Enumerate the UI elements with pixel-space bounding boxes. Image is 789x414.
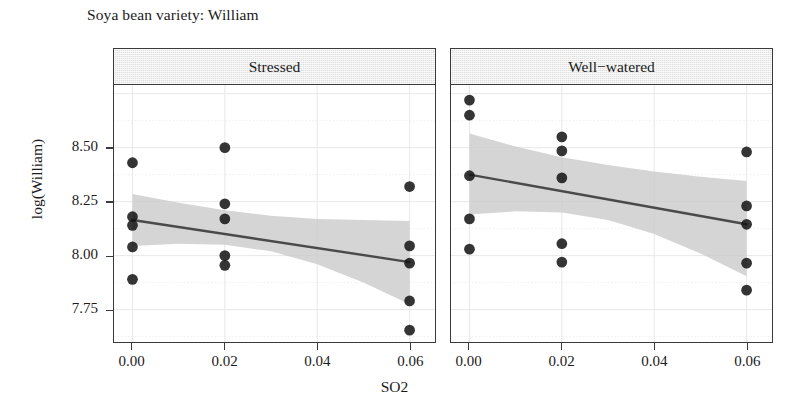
data-point xyxy=(464,95,475,106)
data-point xyxy=(219,214,230,225)
y-tick-mark xyxy=(106,310,113,311)
x-tick-mark xyxy=(747,343,748,350)
data-point xyxy=(404,258,415,269)
data-point xyxy=(127,242,138,253)
x-tick-label: 0.04 xyxy=(277,353,357,370)
panel-strip-wellwatered: Well−watered xyxy=(450,48,773,85)
data-point xyxy=(404,241,415,252)
y-tick-label: 8.00 xyxy=(30,246,98,263)
x-tick-label: 0.02 xyxy=(185,353,265,370)
x-tick-label: 0.04 xyxy=(614,353,694,370)
data-point xyxy=(404,325,415,336)
data-point xyxy=(404,296,415,307)
data-point xyxy=(741,258,752,269)
y-tick-label: 8.25 xyxy=(30,192,98,209)
y-tick-label: 8.50 xyxy=(30,138,98,155)
panel-strip-stressed: Stressed xyxy=(113,48,436,85)
x-tick-label: 0.00 xyxy=(92,353,172,370)
data-point xyxy=(127,274,138,285)
data-point xyxy=(741,147,752,158)
page-title: Soya bean variety: William xyxy=(87,6,259,24)
x-tick-mark xyxy=(654,343,655,350)
scatter-plot-wellwatered xyxy=(451,85,772,342)
data-point xyxy=(464,244,475,255)
data-point xyxy=(741,201,752,212)
y-tick-mark xyxy=(106,147,113,148)
y-tick-label: 7.75 xyxy=(30,300,98,317)
panel-strip-label: Well−watered xyxy=(568,58,655,76)
data-point xyxy=(219,198,230,209)
data-point xyxy=(556,145,567,156)
panel-strip-label: Stressed xyxy=(249,58,301,76)
x-tick-mark xyxy=(224,343,225,350)
chart-page: Soya bean variety: William log(William) … xyxy=(0,0,789,414)
data-point xyxy=(404,181,415,192)
x-tick-label: 0.00 xyxy=(429,353,509,370)
data-point xyxy=(741,285,752,296)
data-point xyxy=(556,238,567,249)
panel-stressed: Stressed xyxy=(113,48,436,343)
confidence-band xyxy=(132,194,409,304)
data-point xyxy=(741,219,752,230)
x-tick-mark xyxy=(317,343,318,350)
confidence-band xyxy=(469,134,746,277)
data-point xyxy=(219,250,230,261)
x-tick-mark xyxy=(561,343,562,350)
x-tick-label: 0.06 xyxy=(707,353,787,370)
x-tick-mark xyxy=(131,343,132,350)
y-tick-mark xyxy=(106,201,113,202)
scatter-plot-stressed xyxy=(114,85,435,342)
plot-area-stressed xyxy=(113,85,436,343)
x-tick-label: 0.02 xyxy=(522,353,602,370)
data-point xyxy=(127,157,138,168)
data-point xyxy=(464,110,475,121)
data-point xyxy=(464,170,475,181)
data-point xyxy=(556,131,567,142)
data-point xyxy=(127,220,138,231)
x-tick-mark xyxy=(468,343,469,350)
x-axis-title: SO2 xyxy=(0,378,789,396)
plot-area-wellwatered xyxy=(450,85,773,343)
data-point xyxy=(556,257,567,268)
data-point xyxy=(219,142,230,153)
data-point xyxy=(219,260,230,271)
panel-wellwatered: Well−watered xyxy=(450,48,773,343)
y-tick-mark xyxy=(106,256,113,257)
data-point xyxy=(464,214,475,225)
data-point xyxy=(556,172,567,183)
x-tick-mark xyxy=(410,343,411,350)
